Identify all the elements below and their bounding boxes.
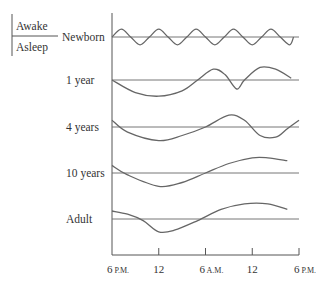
x-tick-label: 12 xyxy=(153,263,164,275)
series-10-years: 10 years xyxy=(66,157,299,186)
series-1-year: 1 year xyxy=(66,67,299,97)
series-label: 1 year xyxy=(66,74,95,87)
legend: Awake Asleep xyxy=(12,14,58,56)
sleep-wake-curve xyxy=(112,157,287,186)
sleep-wake-cycle-chart: Awake Asleep 6 P.M.126 A.M.126 P.M. Newb… xyxy=(0,0,322,282)
sleep-wake-curve xyxy=(112,203,287,232)
x-ticks: 6 P.M.126 A.M.126 P.M. xyxy=(107,248,316,275)
x-tick-label: 6 P.M. xyxy=(294,263,316,275)
series-4-years: 4 years xyxy=(66,115,299,141)
sleep-wake-curve xyxy=(112,67,291,97)
series-label: Adult xyxy=(66,213,93,225)
x-tick-label: 12 xyxy=(247,263,258,275)
series-label: 4 years xyxy=(66,121,99,134)
legend-awake: Awake xyxy=(16,20,48,32)
series-newborn: Newborn xyxy=(62,29,299,45)
sleep-wake-curve xyxy=(112,115,299,141)
series-label: 10 years xyxy=(66,167,105,180)
series-adult: Adult xyxy=(66,203,299,232)
series-label: Newborn xyxy=(62,31,105,43)
legend-asleep: Asleep xyxy=(16,41,48,54)
x-tick-label: 6 P.M. xyxy=(107,263,129,275)
series-rows: Newborn1 year4 years10 yearsAdult xyxy=(62,29,299,232)
x-tick-label: 6 A.M. xyxy=(200,263,224,275)
